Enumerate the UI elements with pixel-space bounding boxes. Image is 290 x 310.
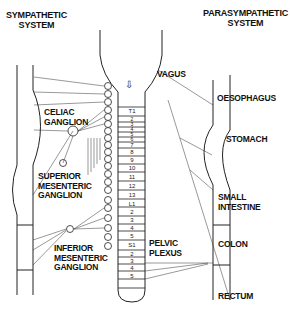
segment-label: 5: [125, 273, 139, 279]
header-line: SYSTEM: [6, 20, 67, 30]
segment-label: 4: [125, 225, 139, 231]
label-line: GANGLION: [38, 191, 92, 201]
segment-label: 9: [125, 157, 139, 163]
label-line: GANGLION: [44, 118, 88, 128]
segment-label: 11: [125, 174, 139, 180]
celiac-ganglion-label: CELIAC GANGLION: [44, 108, 88, 127]
superior-mesenteric-ganglion-label: SUPERIOR MESENTERIC GANGLION: [38, 172, 92, 201]
right-gut-outer-wall: [204, 80, 213, 300]
diagram-canvas: ⇩: [0, 0, 290, 310]
segment-label: 2: [125, 209, 139, 215]
segment-label: 2: [125, 251, 139, 257]
small-intestine-label: SMALL INTESTINE: [218, 193, 261, 212]
parasympathetic-system-header: PARASYMPATHETIC SYSTEM: [203, 8, 288, 28]
label-line: PLEXUS: [149, 249, 182, 259]
sympathetic-system-header: SYMPATHETIC SYSTEM: [6, 10, 67, 30]
header-line: SYSTEM: [203, 18, 288, 28]
segment-label: S1: [125, 242, 139, 248]
segment-label: 12: [125, 183, 139, 189]
segment-label: 7: [125, 142, 139, 148]
oesophagus-label: OESOPHAGUS: [217, 94, 276, 104]
header-line: PARASYMPATHETIC: [203, 8, 288, 18]
inferior-mesenteric-ganglion-node: [67, 226, 74, 233]
right-gut-inner-wall: [223, 75, 231, 300]
label-line: GANGLION: [54, 263, 108, 273]
inferior-mesenteric-ganglion-label: INFERIOR MESENTERIC GANGLION: [54, 244, 108, 273]
rectum-label: RECTUM: [218, 292, 253, 302]
segment-label: 8: [125, 149, 139, 155]
header-line: SYMPATHETIC: [6, 10, 67, 20]
segment-label: 4: [125, 265, 139, 271]
stomach-label: STOMACH: [226, 135, 267, 145]
segment-label: 3: [125, 258, 139, 264]
left-gut-outer-wall: [13, 65, 18, 295]
vagus-label: VAGUS: [157, 70, 186, 80]
pelvic-plexus-label: PELVIC PLEXUS: [149, 239, 182, 258]
segment-label: T1: [125, 108, 139, 114]
segment-label: 13: [125, 192, 139, 198]
segment-label: L1: [125, 201, 139, 207]
segment-label: 5: [125, 233, 139, 239]
colon-label: COLON: [218, 240, 248, 250]
segment-label: 3: [125, 217, 139, 223]
segment-label: 10: [125, 165, 139, 171]
arrow-icon: ⇩: [125, 79, 133, 90]
label-line: INTESTINE: [218, 203, 261, 213]
